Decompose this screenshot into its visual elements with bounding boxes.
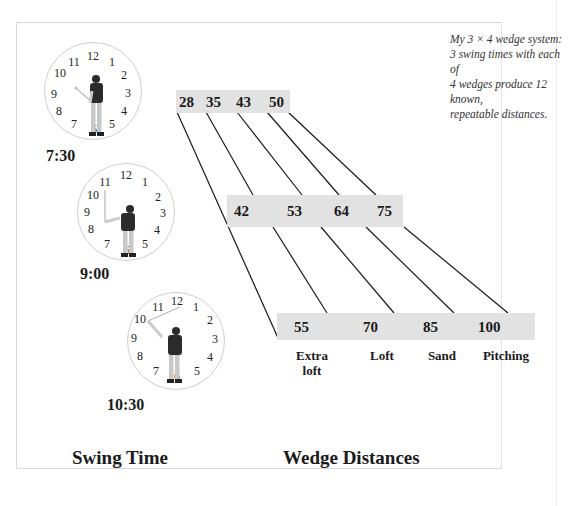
clock-7-30: 12 1 2 3 4 5 6 7 8 9 10 11 <box>44 42 142 140</box>
distance-row-7-30: 28 35 43 50 <box>176 90 290 113</box>
swing-time-label-7-30: 7:30 <box>46 147 75 165</box>
distance-value: 64 <box>334 203 349 220</box>
wedge-label-line: Sand <box>420 348 464 363</box>
distance-value: 70 <box>363 318 378 335</box>
clock-number: 3 <box>125 86 131 101</box>
distance-value: 85 <box>423 318 438 335</box>
clock-number: 3 <box>160 206 166 221</box>
wedge-label-line: Extra <box>290 348 334 363</box>
distance-value: 50 <box>269 93 284 110</box>
clock-number: 12 <box>120 168 132 183</box>
wedge-label-pitching: Pitching <box>476 348 536 363</box>
golfer-icon <box>144 305 204 385</box>
distance-value: 75 <box>377 203 392 220</box>
clock-10-30: 12 1 2 3 4 5 6 7 8 9 10 11 <box>127 292 225 390</box>
wedge-label-line: Pitching <box>476 348 536 363</box>
clock-number: 1 <box>109 55 115 70</box>
clock-number: 10 <box>87 188 99 203</box>
wedge-label-sand: Sand <box>420 348 464 363</box>
connector-line <box>366 227 454 313</box>
clock-number: 2 <box>155 190 161 205</box>
clock-number: 2 <box>207 313 213 328</box>
distance-value: 35 <box>206 93 221 110</box>
distance-value: 43 <box>236 93 251 110</box>
connector-line <box>273 227 327 313</box>
clock-number: 9 <box>84 205 90 220</box>
distance-value: 100 <box>478 318 501 335</box>
wedge-label-line: Loft <box>362 348 402 363</box>
swing-time-title: Swing Time <box>72 447 168 469</box>
clock-number: 8 <box>137 349 143 364</box>
clock-number: 10 <box>54 66 66 81</box>
swing-time-label-9-00: 9:00 <box>80 265 109 283</box>
connector-line <box>404 227 508 313</box>
clock-number: 9 <box>51 87 57 102</box>
golfer-icon <box>100 182 150 258</box>
clock-number: 8 <box>56 104 62 119</box>
connector-line <box>288 112 376 195</box>
clock-number: 4 <box>207 350 213 365</box>
distance-value: 42 <box>234 203 249 220</box>
clock-number: 8 <box>88 222 94 237</box>
clock-9-00: 12 1 2 3 4 5 6 7 8 9 10 11 <box>77 163 175 261</box>
connector-line <box>267 112 339 195</box>
wedge-label-extra-loft: Extra loft <box>290 348 334 378</box>
clock-number: 4 <box>154 223 160 238</box>
wedge-label-loft: Loft <box>362 348 402 363</box>
clock-number: 2 <box>121 68 127 83</box>
wedge-label-line: loft <box>290 363 334 378</box>
connector-line <box>206 112 253 195</box>
clock-number: 11 <box>68 55 80 70</box>
clock-number: 3 <box>212 332 218 347</box>
distance-value: 55 <box>294 318 309 335</box>
clock-number: 4 <box>121 104 127 119</box>
golfer-icon <box>69 73 119 137</box>
distance-value: 53 <box>287 203 302 220</box>
connector-line <box>321 227 394 313</box>
distance-row-9-00: 42 53 64 75 <box>227 195 403 227</box>
wedge-distances-title: Wedge Distances <box>283 447 420 469</box>
clock-number: 12 <box>87 49 99 64</box>
distance-value: 28 <box>179 93 194 110</box>
swing-time-label-10-30: 10:30 <box>107 396 144 414</box>
connector-line <box>237 112 302 195</box>
distance-row-10-30: 55 70 85 100 <box>277 313 535 340</box>
clock-number: 9 <box>131 331 137 346</box>
